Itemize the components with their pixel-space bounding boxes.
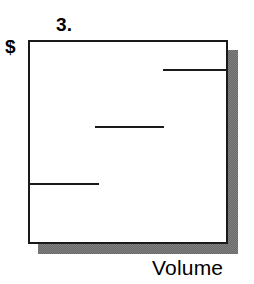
x-axis-label: Volume xyxy=(152,256,223,280)
figure-panel: 3. $ Volume xyxy=(0,0,254,284)
data-segment-top xyxy=(163,69,226,71)
plot-area xyxy=(28,40,228,244)
page-title: 3. xyxy=(0,14,254,36)
data-segment-middle xyxy=(95,126,165,128)
data-segment-bottom xyxy=(30,183,99,185)
y-axis-label: $ xyxy=(5,36,16,58)
